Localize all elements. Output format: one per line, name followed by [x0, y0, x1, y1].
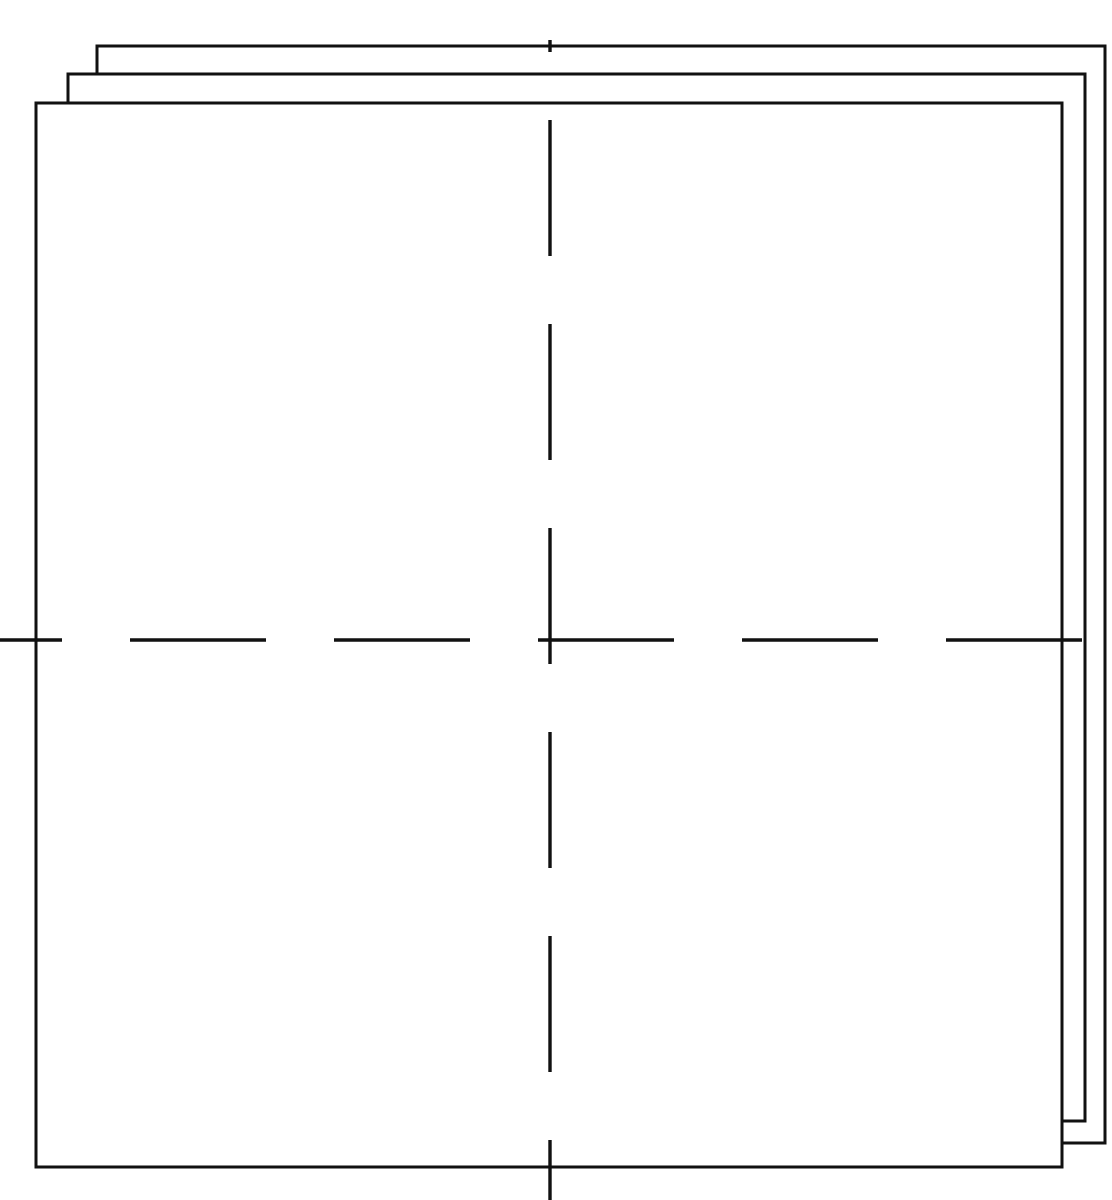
technical-drawing	[0, 0, 1112, 1200]
drawing-canvas	[0, 0, 1112, 1200]
